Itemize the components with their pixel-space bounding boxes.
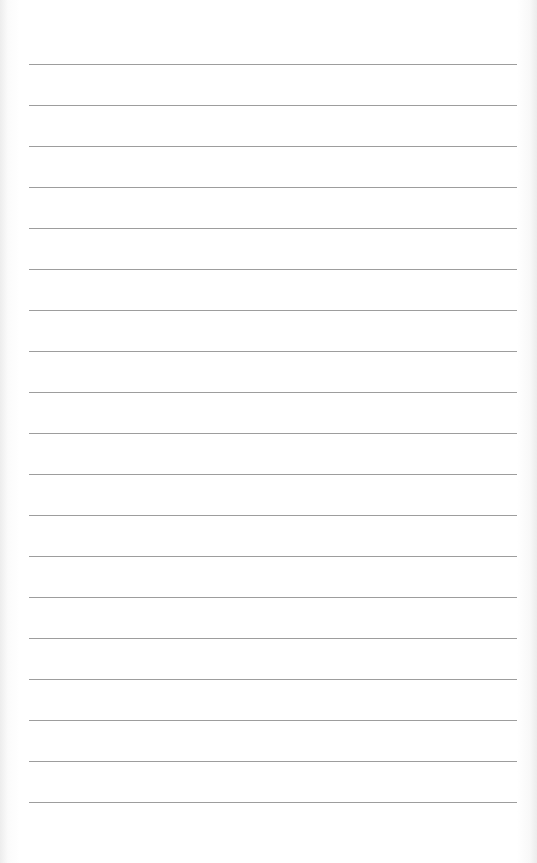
ruled-line — [29, 597, 517, 598]
ruled-line — [29, 761, 517, 762]
ruled-line — [29, 720, 517, 721]
ruled-line — [29, 638, 517, 639]
ruled-line — [29, 802, 517, 803]
ruled-line — [29, 679, 517, 680]
ruled-line — [29, 515, 517, 516]
ruled-line — [29, 556, 517, 557]
ruled-line — [29, 474, 517, 475]
ruled-line — [29, 392, 517, 393]
lined-paper-sheet — [0, 0, 537, 863]
ruled-line — [29, 64, 517, 65]
ruled-line — [29, 187, 517, 188]
ruled-line — [29, 105, 517, 106]
ruled-line — [29, 269, 517, 270]
ruled-line — [29, 146, 517, 147]
ruled-line — [29, 228, 517, 229]
ruled-line — [29, 310, 517, 311]
ruled-line — [29, 351, 517, 352]
ruled-line — [29, 433, 517, 434]
